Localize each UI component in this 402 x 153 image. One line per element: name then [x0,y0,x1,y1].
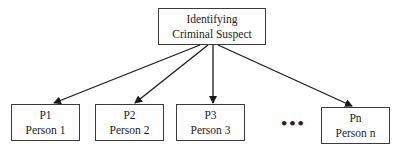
child-node-p2: P2 Person 2 [95,104,164,141]
node-label: Person 1 [26,123,66,138]
root-node: Identifying Criminal Suspect [158,8,266,45]
edge-root-p1 [54,45,200,103]
child-node-p3: P3 Person 3 [176,104,245,141]
child-node-pn: Pn Person n [321,107,390,144]
ellipsis-indicator: ••• [280,116,305,131]
node-id: P1 [39,108,51,123]
root-line-2: Criminal Suspect [172,27,252,42]
edge-root-pn [218,45,352,106]
child-node-p1: P1 Person 1 [11,104,80,141]
node-id: P2 [123,108,135,123]
root-line-1: Identifying [186,12,237,27]
edge-root-p2 [135,45,208,103]
node-id: Pn [349,111,361,126]
node-label: Person 2 [110,123,150,138]
node-label: Person n [336,126,376,141]
node-label: Person 3 [191,123,231,138]
node-id: P3 [204,108,216,123]
